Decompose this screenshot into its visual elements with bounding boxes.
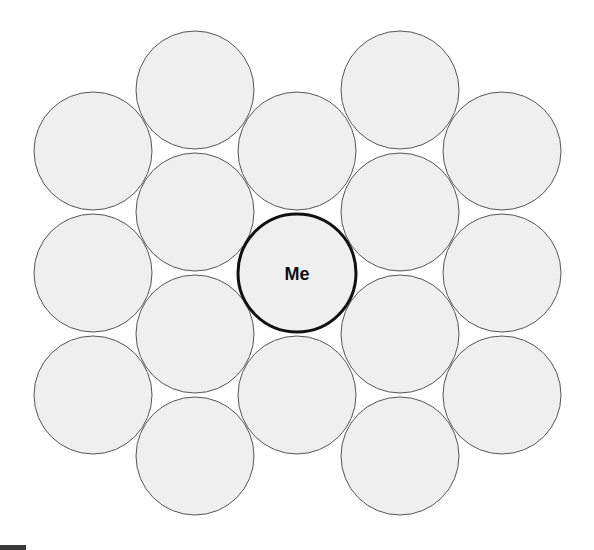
- corner-bar: [0, 545, 26, 550]
- circle-node: [341, 275, 459, 393]
- circle-node: [136, 275, 254, 393]
- circle-node: [136, 153, 254, 271]
- me-label: Me: [284, 264, 309, 284]
- circle-node: [34, 336, 152, 454]
- circle-node: [136, 31, 254, 149]
- circle-node: [443, 214, 561, 332]
- circle-node: [443, 92, 561, 210]
- circle-node: [443, 336, 561, 454]
- circle-node: [136, 397, 254, 515]
- circle-node: [34, 214, 152, 332]
- circle-node: [238, 336, 356, 454]
- circle-node: [341, 31, 459, 149]
- circle-node: [238, 92, 356, 210]
- circle-node: [341, 397, 459, 515]
- circle-node: [341, 153, 459, 271]
- circle-node: [34, 92, 152, 210]
- center-node: Me: [238, 214, 356, 332]
- circle-network-diagram: Me: [0, 0, 594, 550]
